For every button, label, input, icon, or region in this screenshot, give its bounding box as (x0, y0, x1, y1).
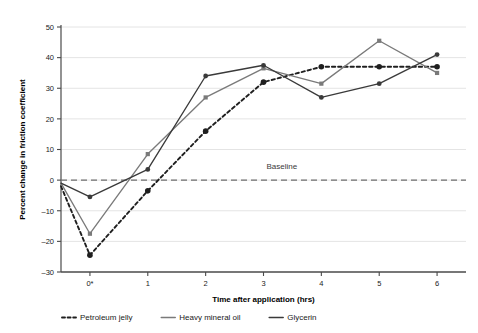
data-point-marker (203, 128, 209, 134)
y-axis-tick-label: 40 (46, 53, 54, 62)
x-axis-tick-label: 1 (146, 279, 150, 288)
x-axis-tick-label: 0* (86, 279, 93, 288)
y-axis-tick-label: 30 (46, 84, 54, 93)
data-point-marker (87, 252, 93, 258)
data-point-marker (435, 71, 439, 75)
y-axis-tick-label: –30 (41, 268, 54, 277)
x-axis-tick-label: 3 (261, 279, 265, 288)
y-axis-tick-label: 0 (50, 176, 54, 185)
data-point-marker (377, 81, 382, 86)
data-point-marker (146, 152, 150, 156)
data-point-marker (145, 167, 150, 172)
y-axis-tick-label: 20 (46, 115, 54, 124)
x-axis-tick-label: 2 (204, 279, 208, 288)
x-axis-tick-label: 4 (319, 279, 323, 288)
legend-item-label: Glycerin (287, 313, 316, 322)
legend-item-label: Heavy mineral oil (179, 313, 241, 322)
data-point-marker (88, 195, 93, 200)
x-axis-tick-label: 6 (435, 279, 439, 288)
data-point-marker (319, 95, 324, 100)
data-point-marker (88, 232, 92, 236)
y-axis-tick-label: –20 (41, 237, 54, 246)
data-point-marker (261, 79, 267, 85)
data-point-marker (145, 188, 151, 194)
data-point-marker (434, 64, 440, 70)
legend-item-label: Petroleum jelly (80, 313, 132, 322)
data-point-marker (435, 52, 440, 57)
data-point-marker (377, 39, 381, 43)
x-axis-tick-label: 5 (377, 279, 381, 288)
y-axis-title: Percent change in friction coefficient (18, 79, 27, 220)
data-point-marker (203, 74, 208, 79)
data-point-marker (204, 95, 208, 99)
data-point-marker (376, 64, 382, 70)
y-axis-tick-label: 10 (46, 145, 54, 154)
friction-coefficient-line-chart: 50403020100–10–20–30 0*123456 Baseline P… (0, 0, 478, 333)
baseline-annotation-label: Baseline (266, 162, 297, 171)
chart-canvas: 50403020100–10–20–30 0*123456 Baseline P… (0, 0, 478, 333)
data-point-marker (319, 82, 323, 86)
y-axis-tick-label: –10 (41, 207, 54, 216)
data-point-marker (319, 64, 325, 70)
x-axis-title: Time after application (hrs) (212, 295, 315, 304)
chart-background (0, 0, 478, 333)
y-axis-tick-label: 50 (46, 23, 54, 32)
data-point-marker (261, 63, 266, 68)
